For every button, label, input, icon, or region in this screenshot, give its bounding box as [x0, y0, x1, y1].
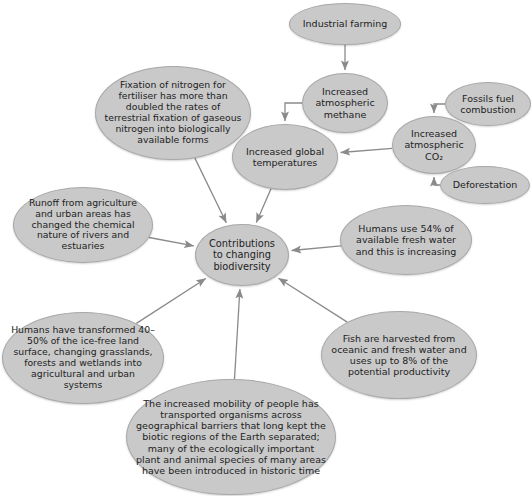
node-fish-harvesting[interactable]: Fish are harvested from oceanic and fres…: [321, 311, 477, 399]
node-atmospheric-co2[interactable]: Increased atmospheric CO₂: [392, 116, 476, 174]
node-label: Humans have transformed 40–50% of the ic…: [3, 325, 163, 391]
node-label: Increased atmospheric CO₂: [393, 128, 475, 162]
connector-temperatures-to-contributions: [256, 189, 271, 223]
node-label: Fish are harvested from oceanic and fres…: [322, 333, 476, 378]
connector-mobility-to-contributions: [235, 289, 240, 379]
connector-co2-to-temperatures: [341, 148, 393, 152]
node-label: Increased atmospheric methane: [303, 86, 387, 120]
connector-fish-to-contributions: [279, 278, 348, 322]
node-land-transformation[interactable]: Humans have transformed 40–50% of the ic…: [2, 312, 164, 404]
node-label: Humans use 54% of available fresh water …: [341, 223, 471, 257]
node-deforestation[interactable]: Deforestation: [440, 166, 530, 204]
node-species-mobility[interactable]: The increased mobility of people has tra…: [126, 379, 336, 495]
connector-methane-to-temperatures: [285, 103, 302, 121]
node-label: Deforestation: [445, 179, 526, 190]
connector-fossilfuel-to-co2: [434, 104, 445, 113]
node-label: The increased mobility of people has tra…: [127, 398, 335, 476]
node-atmospheric-methane[interactable]: Increased atmospheric methane: [302, 73, 388, 133]
node-label: Increased global temperatures: [233, 146, 337, 168]
node-label: Contributions to changing biodiversity: [196, 238, 288, 273]
node-label: Fixation of nitrogen for fertiliser has …: [96, 80, 250, 146]
node-label: Industrial farming: [295, 18, 395, 29]
connector-freshwater-to-contributions: [292, 246, 341, 251]
connector-runoff-to-contributions: [149, 238, 194, 246]
node-agricultural-runoff[interactable]: Runoff from agriculture and urban areas …: [13, 187, 153, 263]
node-label: Runoff from agriculture and urban areas …: [14, 198, 152, 253]
node-industrial-farming[interactable]: Industrial farming: [289, 3, 401, 45]
node-global-temperatures[interactable]: Increased global temperatures: [232, 124, 338, 190]
connector-land-to-contributions: [136, 279, 205, 324]
node-label: Fossils fuel combustion: [446, 93, 530, 115]
node-fossil-fuel-combustion[interactable]: Fossils fuel combustion: [445, 82, 531, 126]
node-fresh-water-use[interactable]: Humans use 54% of available fresh water …: [340, 205, 472, 275]
node-contributions-biodiversity[interactable]: Contributions to changing biodiversity: [195, 224, 289, 286]
connector-nitrogen-to-contributions: [195, 158, 226, 223]
node-nitrogen-fixation[interactable]: Fixation of nitrogen for fertiliser has …: [95, 66, 251, 160]
concept-map-canvas: Industrial farmingFixation of nitrogen f…: [0, 0, 532, 496]
